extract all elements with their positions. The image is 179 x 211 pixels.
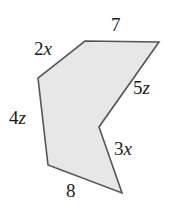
side-label-left-variable: z [19,107,26,128]
side-label-left-coefficient: 4 [9,107,19,128]
side-label-upper-left-variable: x [44,38,52,59]
side-label-upper-left-coefficient: 2 [34,38,44,59]
side-label-top-coefficient: 7 [111,14,121,35]
side-label-upper-left: 2x [34,39,52,58]
polygon-shape [38,41,159,193]
polygon-svg [0,0,179,211]
side-label-bottom: 8 [66,181,76,200]
side-label-lower-right-coefficient: 3 [114,138,124,159]
side-label-lower-right-variable: x [124,138,132,159]
side-label-right-variable: z [143,77,150,98]
side-label-lower-right: 3x [114,139,132,158]
side-label-left: 4z [9,108,26,127]
side-label-right: 5z [133,78,150,97]
polygon-figure: 7 2x 5z 4z 3x 8 [0,0,179,211]
side-label-right-coefficient: 5 [133,77,143,98]
side-label-bottom-coefficient: 8 [66,180,76,201]
side-label-top: 7 [111,15,121,34]
